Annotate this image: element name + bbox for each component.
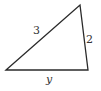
left-side-label: 3 <box>33 24 40 37</box>
triangle-diagram: 3 2 y <box>0 0 101 91</box>
bottom-side-label: y <box>45 73 53 86</box>
right-side-label: 2 <box>86 33 93 46</box>
triangle-shape <box>6 5 88 70</box>
